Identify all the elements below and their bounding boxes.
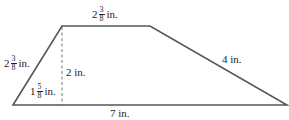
right-side-text: 4 in. (222, 54, 242, 65)
height-label: 2 in. (66, 67, 86, 78)
top-base-label: 2 38 in. (92, 6, 118, 23)
bottom-left-segment-label: 1 58 in. (30, 83, 56, 100)
unit: in. (107, 9, 118, 20)
denominator: 8 (12, 64, 16, 72)
whole-part: 1 (30, 86, 36, 97)
fraction: 38 (99, 6, 105, 23)
unit: in. (19, 58, 30, 69)
trapezoid-figure (0, 0, 289, 120)
right-side-label: 4 in. (222, 54, 242, 65)
denominator: 8 (38, 92, 42, 100)
height-text: 2 in. (66, 67, 86, 78)
denominator: 8 (100, 15, 104, 23)
left-side-label: 2 38 in. (4, 55, 30, 72)
bottom-text: 7 in. (110, 108, 130, 119)
whole-part: 2 (4, 58, 10, 69)
bottom-base-label: 7 in. (110, 108, 130, 119)
fraction: 38 (11, 55, 17, 72)
whole-part: 2 (92, 9, 98, 20)
unit: in. (45, 86, 56, 97)
fraction: 58 (37, 83, 43, 100)
